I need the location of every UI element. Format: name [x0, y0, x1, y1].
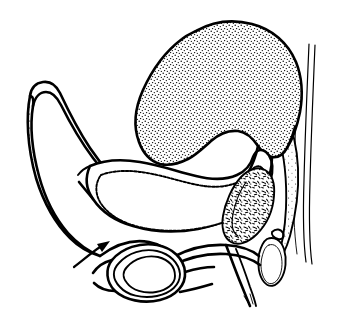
- anatomy-figure: Sagittal section line drawing of lower a…: [0, 0, 337, 314]
- anatomy-diagram-svg: [0, 0, 337, 314]
